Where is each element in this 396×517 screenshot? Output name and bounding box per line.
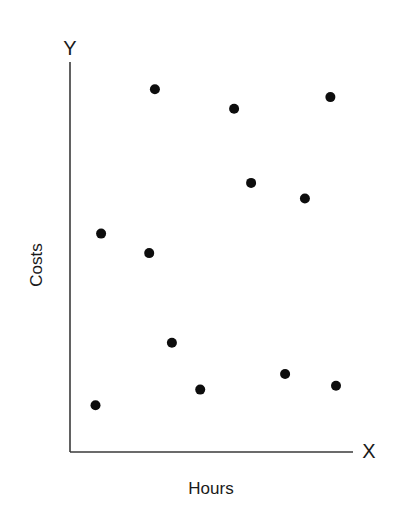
data-points [91,84,342,410]
y-axis-letter: Y [63,37,76,59]
data-point [229,104,239,114]
data-point [300,194,310,204]
axes [70,62,353,452]
data-point [195,385,205,395]
data-point [246,178,256,188]
data-point [331,381,341,391]
data-point [144,248,154,258]
data-point [325,92,335,102]
x-axis-title: Hours [188,479,233,498]
data-point [167,338,177,348]
scatter-chart: Y X Costs Hours [0,0,396,517]
data-point [150,84,160,94]
data-point [96,229,106,239]
data-point [280,369,290,379]
y-axis-title: Costs [27,243,46,286]
data-point [91,400,101,410]
x-axis-letter: X [362,440,375,462]
